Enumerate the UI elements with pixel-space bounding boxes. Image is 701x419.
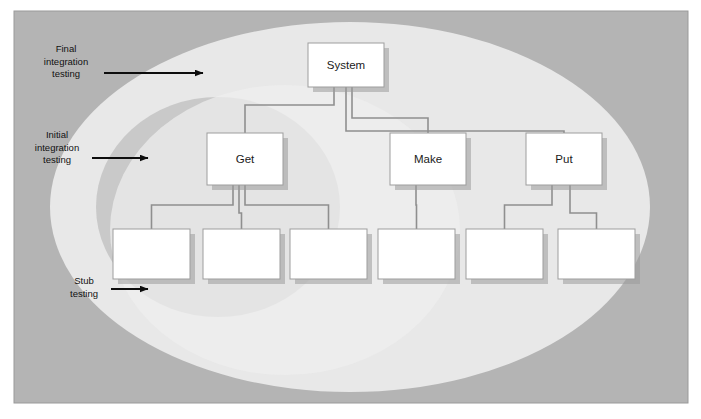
tree-node-leaf-leaf-1	[113, 229, 195, 284]
testing-strategy-figure: SystemGetMakePut Finalintegrationtesting…	[0, 0, 701, 419]
node-box	[558, 229, 635, 279]
connector-make-to-leaf-4	[416, 185, 417, 229]
tree-node-leaf-leaf-5	[466, 229, 548, 284]
node-box	[113, 229, 190, 279]
tree-node-make: Make	[390, 133, 471, 190]
node-label: System	[327, 59, 365, 71]
diagram-canvas: SystemGetMakePut Finalintegrationtesting…	[0, 0, 701, 419]
node-box	[290, 229, 367, 279]
tree-node-leaf-leaf-6	[558, 229, 640, 284]
node-label: Make	[414, 153, 442, 165]
tree-node-put: Put	[526, 133, 607, 190]
node-box	[203, 229, 280, 279]
tree-node-get: Get	[207, 133, 288, 190]
tree-node-leaf-leaf-2	[203, 229, 285, 284]
node-label: Put	[555, 153, 573, 165]
tree-node-leaf-leaf-4	[378, 229, 460, 284]
node-box	[466, 229, 543, 279]
tree-node-system: System	[308, 43, 389, 92]
tree-node-leaf-leaf-3	[290, 229, 372, 284]
node-label: Get	[236, 153, 255, 165]
node-box	[378, 229, 455, 279]
